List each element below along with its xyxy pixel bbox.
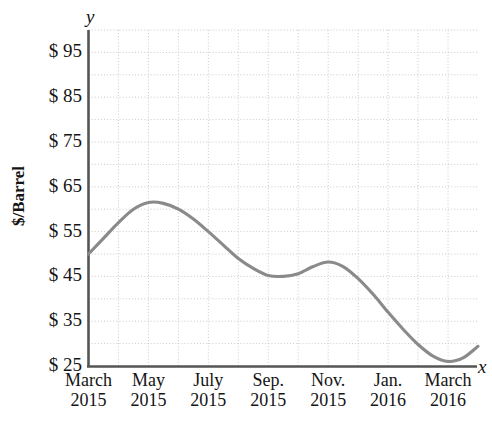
data-series-line [89,202,479,362]
line-chart-plot [0,0,492,424]
horizontal-gridlines [89,30,479,344]
chart-figure: $/Barrel $ 95$ 85$ 75$ 65$ 55$ 45$ 35$ 2… [0,0,492,424]
vertical-gridlines [118,30,448,366]
